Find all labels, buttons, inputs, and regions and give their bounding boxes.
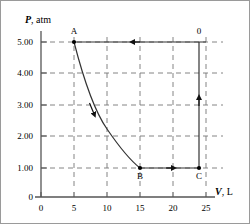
- y-tick-label-3: 3.00: [7, 101, 33, 110]
- x-axis-variable: V: [215, 186, 222, 197]
- x-axis-unit: , L: [222, 186, 233, 197]
- marker-point-b: [138, 166, 142, 170]
- marker-point-a: [72, 40, 76, 44]
- x-axis-title: V, L: [215, 187, 233, 197]
- marker-point-c: [197, 166, 201, 170]
- y-axis-title: P, atm: [25, 15, 51, 25]
- point-label-c: C: [192, 172, 206, 181]
- x-tick-label-25: 25: [196, 204, 216, 213]
- state-point-markers: [72, 40, 201, 170]
- pressure-volume-diagram: P, atm V, L 5.00 4.00 3.00 2.00 1.00 0 0…: [0, 0, 250, 224]
- y-tick-label-0: 0: [7, 193, 33, 202]
- gridlines: [41, 37, 223, 189]
- x-tick-label-10: 10: [97, 204, 117, 213]
- x-tick-label-15: 15: [130, 204, 150, 213]
- y-tick-label-5: 5.00: [7, 38, 33, 47]
- y-axis-unit: , atm: [31, 14, 51, 25]
- point-label-d: 0: [192, 27, 206, 36]
- x-tick-marks: [41, 192, 206, 197]
- y-tick-label-2: 2.00: [7, 132, 33, 141]
- point-label-b: B: [133, 172, 147, 181]
- y-tick-label-4: 4.00: [7, 69, 33, 78]
- y-tick-marks: [41, 42, 47, 168]
- x-tick-label-5: 5: [64, 204, 84, 213]
- x-tick-label-20: 20: [163, 204, 183, 213]
- axes: [35, 31, 215, 197]
- point-label-a: A: [67, 27, 81, 36]
- x-tick-label-0: 0: [31, 204, 51, 213]
- chart-canvas: [1, 1, 250, 224]
- y-tick-label-1: 1.00: [7, 164, 33, 173]
